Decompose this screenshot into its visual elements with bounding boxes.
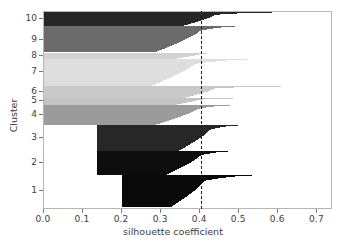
x-tick-label: 0.0 (36, 214, 51, 224)
x-tick-label: 0.1 (75, 214, 90, 224)
y-tick-mark (39, 71, 43, 72)
y-tick-mark (39, 190, 43, 191)
x-tick-label: 0.5 (231, 214, 246, 224)
x-tick-mark (277, 209, 278, 213)
y-tick-mark (39, 55, 43, 56)
cluster-bands-container (44, 12, 331, 208)
x-tick-mark (43, 209, 44, 213)
x-tick-mark (160, 209, 161, 213)
x-tick-mark (121, 209, 122, 213)
cluster-band (44, 12, 332, 26)
y-tick-label: 4 (17, 109, 37, 119)
y-tick-label: 1 (17, 185, 37, 195)
plot-area (43, 11, 332, 209)
x-tick-label: 0.6 (270, 214, 285, 224)
y-tick-mark (39, 162, 43, 163)
cluster-band (44, 86, 332, 98)
x-tick-label: 0.2 (114, 214, 129, 224)
cluster-band (44, 98, 332, 106)
x-tick-mark (82, 209, 83, 213)
cluster-band (44, 151, 332, 175)
y-tick-label: 9 (17, 34, 37, 44)
y-tick-label: 10 (17, 13, 37, 23)
y-tick-mark (39, 91, 43, 92)
x-tick-mark (238, 209, 239, 213)
x-tick-label: 0.3 (153, 214, 168, 224)
y-axis-label: Cluster (8, 81, 19, 151)
cluster-band (44, 125, 332, 151)
cluster-band (44, 59, 332, 86)
cluster-band (44, 175, 332, 207)
y-tick-label: 2 (17, 157, 37, 167)
mean-silhouette-threshold-line (201, 11, 202, 209)
x-axis-label: silhouette coefficient (0, 226, 346, 237)
y-tick-mark (39, 100, 43, 101)
y-tick-label: 5 (17, 95, 37, 105)
y-tick-mark (39, 137, 43, 138)
y-tick-label: 6 (17, 86, 37, 96)
silhouette-plot-figure: 0.00.10.20.30.40.50.60.7 10987654321 sil… (0, 0, 346, 247)
x-tick-label: 0.4 (192, 214, 207, 224)
y-tick-mark (39, 114, 43, 115)
x-tick-mark (316, 209, 317, 213)
x-tick-label: 0.7 (309, 214, 324, 224)
cluster-band (44, 105, 332, 125)
x-tick-mark (199, 209, 200, 213)
y-tick-mark (39, 39, 43, 40)
cluster-band (44, 26, 332, 52)
y-tick-label: 7 (17, 66, 37, 76)
y-tick-label: 3 (17, 132, 37, 142)
y-tick-mark (39, 18, 43, 19)
y-tick-label: 8 (17, 50, 37, 60)
